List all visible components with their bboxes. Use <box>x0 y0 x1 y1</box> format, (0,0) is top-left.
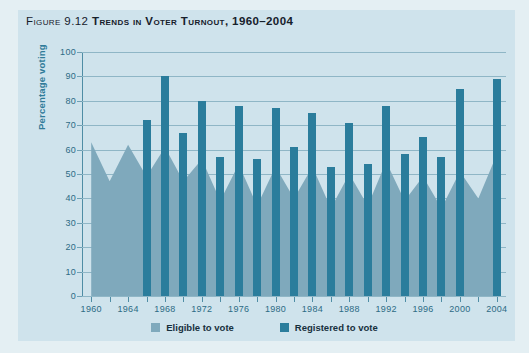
x-tick-mark-1968 <box>165 297 166 302</box>
y-tick-mark-0 <box>77 296 82 297</box>
bar-1976 <box>235 106 243 296</box>
bar-1998 <box>437 157 445 296</box>
x-tick-mark-1962 <box>110 297 111 302</box>
x-tick-mark-1992 <box>386 297 387 302</box>
x-tick-mark-1986 <box>331 297 332 302</box>
x-tick-label-1972: 1972 <box>191 304 212 314</box>
bar-1980 <box>272 108 280 296</box>
x-tick-mark-1988 <box>349 297 350 302</box>
x-tick-label-1976: 1976 <box>228 304 249 314</box>
legend-item-registered: Registered to vote <box>280 322 378 333</box>
x-tick-mark-2004 <box>497 297 498 302</box>
x-tick-label-1988: 1988 <box>339 304 360 314</box>
bar-1982 <box>290 147 298 296</box>
x-tick-label-1960: 1960 <box>81 304 102 314</box>
bar-1992 <box>382 106 390 296</box>
chart-legend: Eligible to voteRegistered to vote <box>0 322 529 333</box>
legend-label-eligible: Eligible to vote <box>166 322 234 333</box>
x-tick-mark-1976 <box>239 297 240 302</box>
x-tick-label-1992: 1992 <box>376 304 397 314</box>
y-tick-label-20: 20 <box>50 242 76 252</box>
x-tick-mark-1994 <box>405 297 406 302</box>
bar-1966 <box>143 120 151 296</box>
y-tick-mark-20 <box>77 247 82 248</box>
y-tick-label-50: 50 <box>50 169 76 179</box>
legend-label-registered: Registered to vote <box>295 322 378 333</box>
x-tick-mark-1982 <box>294 297 295 302</box>
x-tick-mark-1990 <box>368 297 369 302</box>
x-tick-mark-1984 <box>312 297 313 302</box>
y-tick-mark-90 <box>77 76 82 77</box>
figure-title-text: Trends in Voter Turnout, 1960–2004 <box>92 15 293 27</box>
legend-swatch-eligible <box>151 323 160 332</box>
x-tick-mark-1980 <box>276 297 277 302</box>
bar-1986 <box>327 167 335 296</box>
y-tick-label-30: 30 <box>50 218 76 228</box>
y-tick-mark-30 <box>77 223 82 224</box>
x-tick-label-1964: 1964 <box>117 304 138 314</box>
bar-1988 <box>345 123 353 296</box>
y-tick-label-90: 90 <box>50 71 76 81</box>
bar-1974 <box>216 157 224 296</box>
y-tick-label-60: 60 <box>50 145 76 155</box>
y-tick-label-0: 0 <box>50 291 76 301</box>
figure-number-label: Figure 9.12 <box>26 15 88 27</box>
y-tick-mark-10 <box>77 272 82 273</box>
x-tick-label-1996: 1996 <box>412 304 433 314</box>
bar-2000 <box>456 89 464 296</box>
x-tick-mark-1970 <box>183 297 184 302</box>
y-tick-label-100: 100 <box>50 47 76 57</box>
bar-2004 <box>493 79 501 296</box>
x-tick-label-1984: 1984 <box>302 304 323 314</box>
y-tick-mark-70 <box>77 125 82 126</box>
bar-1990 <box>364 164 372 296</box>
x-tick-label-1968: 1968 <box>154 304 175 314</box>
y-tick-mark-60 <box>77 150 82 151</box>
bar-1972 <box>198 101 206 296</box>
legend-item-eligible: Eligible to vote <box>151 322 234 333</box>
y-tick-mark-100 <box>77 52 82 53</box>
y-tick-mark-80 <box>77 101 82 102</box>
x-tick-mark-1996 <box>423 297 424 302</box>
bar-1984 <box>308 113 316 296</box>
x-tick-mark-2000 <box>460 297 461 302</box>
x-tick-mark-1964 <box>128 297 129 302</box>
x-tick-mark-1966 <box>147 297 148 302</box>
bar-1968 <box>161 76 169 296</box>
x-tick-mark-1998 <box>441 297 442 302</box>
bar-1970 <box>179 133 187 296</box>
x-tick-label-2000: 2000 <box>449 304 470 314</box>
x-tick-mark-2002 <box>478 297 479 302</box>
bar-1978 <box>253 159 261 296</box>
x-tick-label-1980: 1980 <box>265 304 286 314</box>
x-tick-mark-1978 <box>257 297 258 302</box>
y-tick-mark-40 <box>77 198 82 199</box>
x-tick-mark-1960 <box>91 297 92 302</box>
legend-swatch-registered <box>280 323 289 332</box>
figure-container: Figure 9.12 Trends in Voter Turnout, 196… <box>0 0 529 353</box>
y-tick-label-80: 80 <box>50 96 76 106</box>
bar-1994 <box>401 154 409 296</box>
plot-area <box>82 52 506 296</box>
y-tick-label-40: 40 <box>50 193 76 203</box>
x-tick-mark-1974 <box>220 297 221 302</box>
y-axis-title: Percentage voting <box>36 44 47 130</box>
x-tick-label-2004: 2004 <box>486 304 507 314</box>
bar-1996 <box>419 137 427 296</box>
figure-title: Figure 9.12 Trends in Voter Turnout, 196… <box>26 15 293 27</box>
x-tick-mark-1972 <box>202 297 203 302</box>
y-tick-label-70: 70 <box>50 120 76 130</box>
y-tick-mark-50 <box>77 174 82 175</box>
y-tick-label-10: 10 <box>50 267 76 277</box>
